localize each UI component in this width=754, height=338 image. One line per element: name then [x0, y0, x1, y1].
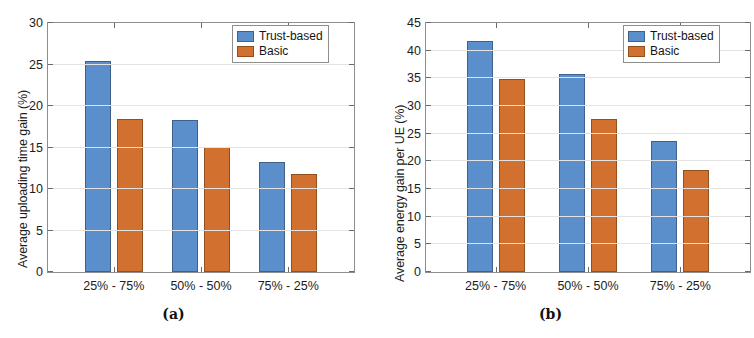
x-axis-tick — [496, 23, 497, 28]
x-axis-tick-label: 50% - 50% — [170, 279, 231, 293]
y-axis-tick — [349, 271, 354, 272]
gridline — [48, 230, 354, 231]
x-axis-tick-label: 75% - 25% — [650, 279, 711, 293]
gridline — [426, 133, 750, 134]
x-axis-tick-label: 25% - 75% — [83, 279, 144, 293]
gridline — [426, 243, 750, 244]
legend-item-basic: Basic — [237, 44, 323, 59]
y-axis-tick — [349, 22, 354, 23]
bar-trust-based-1 — [559, 74, 585, 272]
x-axis-tick — [588, 23, 589, 28]
y-axis-tick — [48, 230, 53, 231]
y-axis-tick — [426, 50, 431, 51]
y-axis-tick — [745, 105, 750, 106]
y-axis-tick — [745, 160, 750, 161]
legend-item-trust-based: Trust-based — [628, 29, 714, 44]
y-axis-tick — [745, 243, 750, 244]
legend-swatch-icon-trust-based — [628, 31, 645, 42]
y-axis-tick — [426, 243, 431, 244]
x-axis-tick — [288, 267, 289, 272]
gridline — [426, 160, 750, 161]
y-axis-tick-label: 20 — [407, 154, 421, 168]
legend-a: Trust-based Basic — [232, 25, 329, 63]
legend-label-basic: Basic — [259, 45, 288, 58]
gridline — [426, 216, 750, 217]
bar-trust-based-2 — [259, 162, 285, 272]
y-axis-tick-label: 5 — [414, 237, 421, 251]
y-axis-tick — [745, 216, 750, 217]
legend-swatch-icon-basic — [628, 46, 645, 57]
bar-trust-based-0 — [85, 61, 111, 272]
bar-basic-2 — [683, 170, 709, 272]
y-axis-tick — [426, 22, 431, 23]
x-axis-tick — [588, 267, 589, 272]
bar-trust-based-0 — [467, 41, 493, 272]
y-axis-tick — [426, 105, 431, 106]
plot-area-a: Average uploading time gain (%) 05101520… — [0, 0, 377, 300]
gridline — [426, 77, 750, 78]
legend-label-basic: Basic — [650, 45, 679, 58]
subfigure-caption-b: (b) — [377, 306, 754, 322]
y-axis-tick — [745, 50, 750, 51]
y-axis-label-a: Average uploading time gain (%) — [16, 90, 30, 268]
legend-swatch-icon-basic — [237, 46, 254, 57]
y-axis-tick-label: 15 — [407, 182, 421, 196]
y-axis-tick — [426, 160, 431, 161]
y-axis-tick — [426, 188, 431, 189]
y-axis-tick — [745, 77, 750, 78]
legend-label-trust-based: Trust-based — [650, 30, 714, 43]
y-axis-tick-label: 10 — [407, 210, 421, 224]
y-axis-tick-label: 0 — [414, 265, 421, 279]
y-axis-tick-label: 5 — [36, 224, 43, 238]
y-axis-tick — [349, 188, 354, 189]
bar-trust-based-1 — [172, 120, 198, 272]
y-axis-tick — [48, 64, 53, 65]
y-axis-tick — [48, 188, 53, 189]
y-axis-tick-label: 0 — [36, 265, 43, 279]
y-axis-tick-label: 45 — [407, 16, 421, 30]
gridline — [426, 105, 750, 106]
y-axis-tick — [48, 22, 53, 23]
x-axis-tick — [114, 23, 115, 28]
x-axis-tick — [496, 267, 497, 272]
y-axis-tick — [48, 271, 53, 272]
legend-item-trust-based: Trust-based — [237, 29, 323, 44]
y-axis-label-b: Average energy gain per UE (%) — [393, 105, 407, 282]
y-axis-tick-label: 40 — [407, 44, 421, 58]
y-axis-tick — [745, 133, 750, 134]
y-axis-tick-label: 15 — [29, 141, 43, 155]
bar-basic-1 — [591, 119, 617, 272]
y-axis-tick — [745, 188, 750, 189]
y-axis-tick — [349, 147, 354, 148]
gridline — [48, 147, 354, 148]
legend-b: Trust-based Basic — [623, 25, 720, 63]
bar-basic-0 — [117, 119, 143, 272]
legend-swatch-icon-trust-based — [237, 31, 254, 42]
y-axis-tick — [426, 216, 431, 217]
gridline — [48, 105, 354, 106]
y-axis-tick-label: 25 — [29, 58, 43, 72]
y-axis-tick — [349, 105, 354, 106]
plot-area-b: Average energy gain per UE (%) 051015202… — [377, 0, 754, 300]
gridline — [426, 188, 750, 189]
x-axis-tick-label: 75% - 25% — [258, 279, 319, 293]
y-axis-tick — [48, 147, 53, 148]
chart-panel-a: Average uploading time gain (%) 05101520… — [0, 0, 377, 338]
y-axis-tick-label: 30 — [29, 16, 43, 30]
y-axis-tick — [426, 271, 431, 272]
bar-basic-1 — [204, 147, 230, 272]
y-axis-tick — [426, 133, 431, 134]
gridline — [48, 188, 354, 189]
x-axis-tick-label: 25% - 75% — [465, 279, 526, 293]
chart-panel-b: Average energy gain per UE (%) 051015202… — [377, 0, 754, 338]
y-axis-tick-label: 25 — [407, 127, 421, 141]
y-axis-tick-label: 20 — [29, 99, 43, 113]
x-axis-tick — [114, 267, 115, 272]
subfigure-caption-a: (a) — [0, 306, 377, 322]
gridline — [48, 64, 354, 65]
legend-label-trust-based: Trust-based — [259, 30, 323, 43]
x-axis-tick — [680, 267, 681, 272]
y-axis-tick-label: 10 — [29, 182, 43, 196]
y-axis-tick — [745, 22, 750, 23]
x-axis-tick — [201, 267, 202, 272]
